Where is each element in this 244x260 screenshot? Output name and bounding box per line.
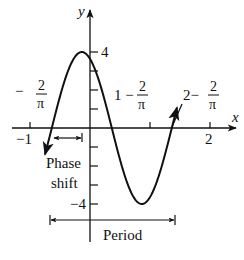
- y-axis-label: y: [76, 3, 85, 19]
- x-tick-2: 2: [205, 131, 213, 147]
- svg-text:2: 2: [210, 79, 217, 94]
- y-tick-neg4: −4: [70, 196, 86, 212]
- svg-text:Period: Period: [103, 227, 143, 243]
- phase-shift-marker: Phase shift: [46, 133, 82, 191]
- sine-graph: y x 4 −4 −1 2 − 2 π 1 − 2 π 2− 2 π Phase…: [0, 0, 244, 260]
- x-tick-neg1: −1: [16, 131, 32, 147]
- svg-text:π: π: [209, 97, 216, 112]
- svg-text:π: π: [138, 97, 145, 112]
- label-1-minus-2-over-pi: 1 − 2 π: [114, 79, 148, 112]
- svg-text:−: −: [15, 83, 23, 99]
- svg-text:2: 2: [38, 78, 45, 93]
- period-marker: Period: [50, 215, 175, 243]
- svg-text:2: 2: [139, 79, 146, 94]
- y-tick-4: 4: [101, 44, 109, 60]
- svg-text:π: π: [37, 96, 44, 111]
- svg-text:shift: shift: [51, 175, 79, 191]
- pointer-line: [172, 104, 182, 127]
- svg-text:Phase: Phase: [46, 155, 81, 171]
- label-neg-2-over-pi: − 2 π: [15, 78, 47, 111]
- svg-text:2−: 2−: [183, 87, 199, 103]
- svg-text:1 −: 1 −: [114, 87, 134, 103]
- label-2-minus-2-over-pi: 2− 2 π: [172, 79, 219, 127]
- x-ticks: [30, 122, 210, 128]
- x-axis-label: x: [231, 109, 239, 125]
